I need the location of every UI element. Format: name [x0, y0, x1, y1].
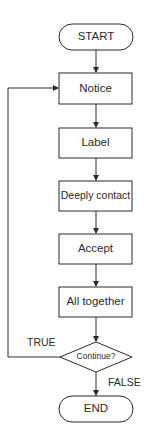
deeply-contact-label: Deeply contact: [59, 190, 132, 201]
label-label: Label: [59, 137, 132, 149]
accept-label: Accept: [59, 243, 132, 255]
notice-label: Notice: [59, 83, 132, 95]
false-edge-label: FALSE: [108, 377, 141, 388]
true-edge-label: TRUE: [27, 337, 56, 348]
continue-label: Continue?: [60, 352, 132, 361]
all-together-label: All together: [59, 296, 132, 308]
start-label: START: [59, 31, 133, 43]
loop-true-arrow: [8, 88, 60, 357]
end-label: END: [59, 403, 133, 415]
flowchart-canvas: [0, 0, 150, 440]
